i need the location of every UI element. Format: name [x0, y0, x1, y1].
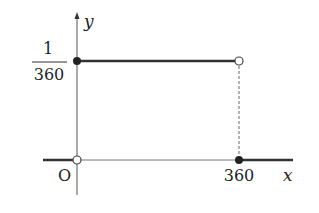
y-axis-arrow-icon	[75, 12, 80, 19]
open-point-top-right	[235, 57, 243, 65]
y-tick-numerator: 1	[43, 39, 53, 58]
y-axis-label: y	[83, 11, 94, 31]
pdf-graph: y x O 360 1 360	[0, 0, 319, 213]
closed-point-360	[235, 156, 243, 164]
y-tick-denominator: 360	[34, 65, 65, 84]
origin-label: O	[58, 166, 71, 185]
open-point-origin	[73, 156, 81, 164]
x-axis-label: x	[283, 165, 293, 185]
x-tick-360: 360	[224, 166, 255, 185]
closed-point-top-left	[73, 57, 81, 65]
